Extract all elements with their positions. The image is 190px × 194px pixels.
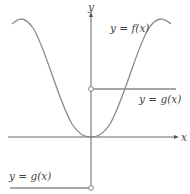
g-upper-label: y = g(x) [139, 94, 181, 105]
x-axis-label: x [181, 132, 187, 143]
g-upper-open-circle [89, 87, 94, 92]
f-label: y = f(x) [110, 23, 149, 34]
f-curve [12, 19, 171, 137]
x-axis-arrow-icon [174, 135, 179, 139]
y-axis-label: y [88, 2, 94, 13]
g-lower-open-circle [89, 186, 94, 191]
g-lower-label: y = g(x) [9, 171, 51, 182]
